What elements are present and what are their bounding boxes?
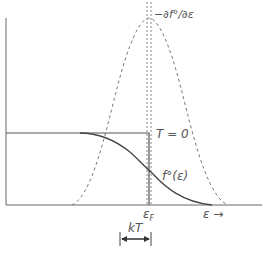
derivative-curve	[72, 18, 228, 205]
fermi-function-curve	[80, 133, 212, 205]
fermi-function-label: f°(ε)	[162, 170, 188, 182]
derivative-label: −∂f°/∂ε	[154, 9, 194, 20]
fermi-diagram	[0, 0, 263, 255]
fermi-level-label: εF	[143, 208, 154, 223]
kt-arrow-right-head	[144, 236, 150, 242]
step-t0-label: T = 0	[156, 128, 189, 140]
energy-axis-label: ε →	[203, 208, 223, 220]
fermi-level-subscript: F	[150, 214, 155, 223]
kt-arrow-left-head	[121, 236, 127, 242]
kt-label: kT	[128, 222, 142, 234]
step-function-t0	[6, 133, 149, 205]
